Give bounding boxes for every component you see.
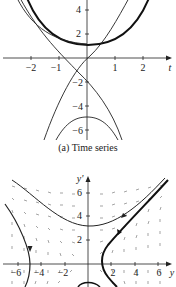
tick-y-6: 6 — [157, 267, 162, 278]
y-axis-arrow-icon — [166, 262, 172, 267]
tick-y-neg6: −6 — [11, 267, 22, 278]
tick-yp-6: 6 — [77, 187, 82, 198]
tick-yp-2: 2 — [77, 234, 82, 245]
phase-plane-plot: −6 −4 −2 2 4 6 y y' 6 4 2 — [0, 0, 176, 287]
tick-y-neg2: −2 — [58, 267, 69, 278]
upper-trajectory — [12, 178, 165, 226]
tick-yp-4: 4 — [77, 210, 82, 221]
tick-y-4: 4 — [134, 267, 139, 278]
tick-y-2: 2 — [111, 267, 116, 278]
y-axis-label: y — [169, 267, 175, 278]
bottom-closed-orbit — [78, 283, 100, 287]
y-prime-axis-label: y' — [76, 173, 84, 184]
tick-y-neg4: −4 — [34, 267, 45, 278]
y-prime-axis-arrow-icon — [86, 176, 91, 182]
